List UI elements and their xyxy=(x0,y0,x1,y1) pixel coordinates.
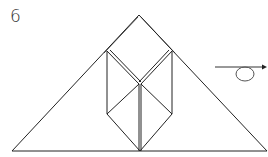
origami-diagram xyxy=(0,0,268,157)
center-flap xyxy=(107,50,172,151)
turn-over-symbol xyxy=(215,65,267,82)
arrowhead-icon xyxy=(262,65,267,70)
